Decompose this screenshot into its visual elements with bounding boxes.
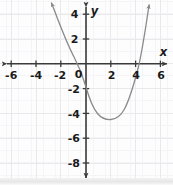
y-tick-label-2: 2: [71, 33, 79, 46]
y-tick-label-neg8: -8: [68, 157, 80, 170]
graph-canvas: -6 -4 -2 2 4 6 4 2 -2 -4 -6 -8 0 x y: [0, 0, 173, 185]
x-tick-label-2: 2: [108, 69, 116, 82]
x-tick-label-neg4: -4: [30, 69, 43, 82]
x-tick-label-4: 4: [132, 69, 140, 82]
x-axis-label: x: [159, 45, 168, 59]
y-axis-label: y: [91, 4, 99, 18]
x-tick-label-6: 6: [157, 69, 165, 82]
x-tick-label-neg2: -2: [54, 69, 66, 82]
coordinate-plane-svg: -6 -4 -2 2 4 6 4 2 -2 -4 -6 -8 0 x y: [0, 0, 173, 185]
image-bottom-border: [0, 178, 173, 185]
x-tick-label-neg6: -6: [5, 69, 18, 82]
parabola-right-arrow-icon: [149, 5, 150, 9]
origin-label: 0: [75, 68, 83, 81]
y-tick-label-neg2: -2: [68, 83, 80, 96]
y-tick-label-neg4: -4: [68, 108, 81, 121]
y-tick-label-4: 4: [71, 8, 79, 21]
y-tick-label-neg6: -6: [68, 132, 81, 145]
